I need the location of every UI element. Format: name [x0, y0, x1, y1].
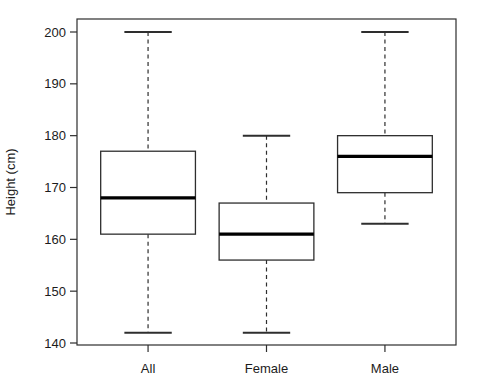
y-tick-label-140: 140	[44, 336, 66, 351]
y-tick-label-170: 170	[44, 180, 66, 195]
box-male	[338, 136, 433, 193]
box-all	[101, 151, 196, 234]
plot-svg: Height (cm) 140150160170180190200AllFema…	[0, 0, 483, 391]
boxplot-chart: Height (cm) 140150160170180190200AllFema…	[0, 0, 483, 391]
y-tick-label-160: 160	[44, 232, 66, 247]
category-label-male: Male	[371, 361, 399, 376]
y-tick-label-150: 150	[44, 284, 66, 299]
y-tick-label-200: 200	[44, 25, 66, 40]
category-label-female: Female	[245, 361, 288, 376]
box-female	[219, 203, 314, 260]
y-tick-label-190: 190	[44, 76, 66, 91]
y-axis-label: Height (cm)	[3, 148, 18, 215]
y-tick-label-180: 180	[44, 128, 66, 143]
category-label-all: All	[141, 361, 156, 376]
